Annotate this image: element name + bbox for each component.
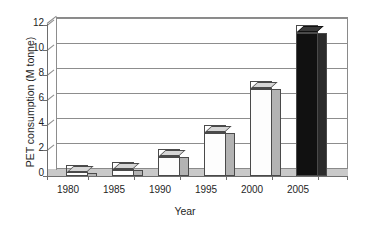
x-tick-label-2005: 2005 — [276, 184, 320, 195]
x-tick-mark-start — [47, 176, 48, 180]
y-tick-label-2: 2 — [22, 143, 44, 153]
x-axis-title: Year — [140, 205, 230, 217]
bar-1995 — [204, 125, 226, 176]
y-tick-mark-2 — [43, 150, 47, 151]
bar-2005 — [296, 25, 318, 176]
y-tick-mark-6 — [43, 100, 47, 101]
x-tick-mark-3 — [180, 176, 181, 180]
bar-2000 — [250, 81, 272, 176]
y-tick-label-4: 4 — [22, 118, 44, 128]
y-tick-label-0: 0 — [22, 168, 44, 178]
x-tick-label-1990: 1990 — [138, 184, 182, 195]
y-tick-label-8: 8 — [22, 68, 44, 78]
y-tick-label-10: 10 — [22, 43, 44, 53]
x-axis-tick-labels: 1980 1985 1990 1995 2000 2005 — [0, 184, 365, 200]
x-tick-mark-2 — [134, 176, 135, 180]
x-tick-mark-6 — [318, 176, 319, 180]
y-axis-back-line — [56, 17, 57, 170]
bar-1990 — [158, 149, 180, 176]
y-tick-label-6: 6 — [22, 93, 44, 103]
y-tick-mark-12 — [43, 25, 47, 26]
x-axis-line — [47, 176, 348, 177]
x-tick-mark-1 — [88, 176, 89, 180]
x-tick-mark-end — [347, 176, 348, 180]
x-tick-mark-5 — [272, 176, 273, 180]
gridline-12 — [56, 18, 348, 19]
bar-1985 — [112, 162, 134, 176]
x-tick-label-2000: 2000 — [230, 184, 274, 195]
y-tick-mark-4 — [43, 125, 47, 126]
x-tick-label-1995: 1995 — [184, 184, 228, 195]
plot-area — [56, 17, 348, 175]
bar-1980 — [66, 165, 88, 176]
y-tick-label-12: 12 — [22, 18, 44, 28]
y-axis-line — [47, 24, 48, 176]
x-tick-label-1980: 1980 — [46, 184, 90, 195]
x-tick-label-1985: 1985 — [92, 184, 136, 195]
y-tick-mark-10 — [43, 50, 47, 51]
y-tick-mark-8 — [43, 75, 47, 76]
bar-chart: PET consumption (M tonne) 0 2 4 6 8 10 1… — [0, 0, 365, 227]
x-tick-mark-4 — [226, 176, 227, 180]
